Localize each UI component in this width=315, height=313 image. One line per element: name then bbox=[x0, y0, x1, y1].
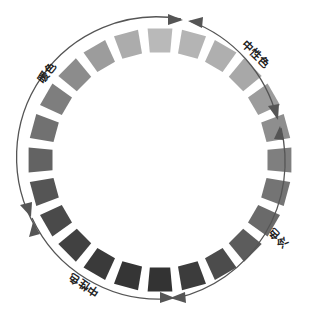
arrow-head-icon bbox=[20, 202, 32, 217]
color-tile bbox=[84, 248, 116, 280]
category-arcs bbox=[17, 14, 286, 303]
color-tile bbox=[58, 229, 91, 262]
arrow-head-icon bbox=[170, 292, 186, 303]
color-tile bbox=[114, 30, 142, 59]
color-tile bbox=[148, 29, 173, 53]
color-tile bbox=[268, 148, 292, 173]
color-tile bbox=[40, 205, 72, 237]
arrow-head-icon bbox=[268, 104, 279, 120]
color-tile bbox=[30, 114, 59, 142]
color-wheel-diagram: 暖色 中性色 冷色 中性色 bbox=[0, 0, 315, 313]
color-tile bbox=[261, 178, 290, 206]
color-tile bbox=[178, 261, 206, 290]
arrow-head-icon bbox=[188, 17, 203, 28]
color-tile bbox=[30, 178, 59, 206]
arrow-head-icon bbox=[168, 14, 183, 25]
color-tile bbox=[148, 268, 173, 292]
color-tile bbox=[40, 84, 72, 116]
color-tile bbox=[29, 148, 53, 173]
color-tile bbox=[205, 248, 237, 280]
color-tile bbox=[84, 40, 116, 72]
color-tile bbox=[178, 30, 206, 59]
color-tile bbox=[114, 261, 142, 290]
color-tile bbox=[58, 58, 91, 91]
